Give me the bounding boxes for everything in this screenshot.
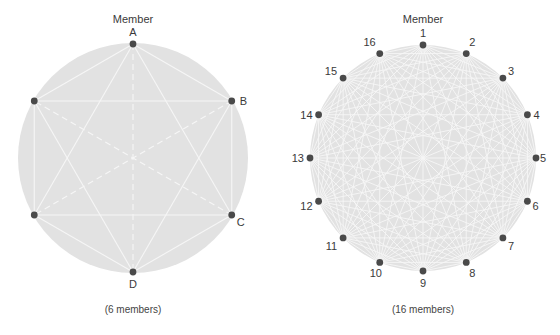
member-node	[315, 198, 322, 205]
member-node	[228, 98, 235, 105]
member-node	[420, 42, 427, 49]
member-label: 3	[508, 65, 514, 77]
member-node	[31, 212, 38, 219]
member-header: Member	[113, 13, 154, 25]
member-label: 16	[364, 36, 376, 48]
member-node	[31, 98, 38, 105]
member-label: 2	[469, 36, 475, 48]
sixteen-member-network: 12345678910111213141516 Member (16 membe…	[292, 13, 546, 315]
network-diagrams: ABCD Member (6 members) 1234567891011121…	[0, 0, 560, 335]
member-label: 5	[540, 152, 546, 164]
member-label: A	[129, 26, 137, 38]
member-label: 10	[370, 267, 382, 279]
member-node	[340, 235, 347, 242]
member-label: 15	[325, 65, 337, 77]
member-label: B	[240, 95, 247, 107]
member-node	[524, 111, 531, 118]
member-node	[315, 111, 322, 118]
member-label: 4	[533, 109, 539, 121]
member-node	[376, 259, 383, 266]
member-label: 13	[292, 152, 304, 164]
member-label: 8	[469, 267, 475, 279]
member-node	[533, 155, 540, 162]
member-node	[130, 41, 137, 48]
member-label: 11	[326, 240, 337, 252]
member-label: D	[129, 278, 137, 290]
member-node	[307, 155, 314, 162]
member-node	[130, 269, 137, 276]
diagram-caption: (6 members)	[105, 304, 162, 315]
six-member-network: ABCD Member (6 members)	[18, 13, 248, 315]
member-node	[463, 259, 470, 266]
member-header: Member	[403, 13, 444, 25]
member-node	[524, 198, 531, 205]
member-node	[500, 75, 507, 82]
member-node	[376, 50, 383, 57]
member-label: 6	[532, 200, 538, 212]
member-label: 12	[300, 200, 312, 212]
member-label: 14	[300, 109, 312, 121]
member-node	[228, 212, 235, 219]
diagram-caption: (16 members)	[392, 304, 454, 315]
member-node	[463, 50, 470, 57]
member-node	[420, 268, 427, 275]
member-label: C	[237, 216, 245, 228]
member-label: 1	[420, 27, 426, 39]
member-node	[340, 75, 347, 82]
member-label: 9	[420, 277, 426, 289]
member-node	[500, 235, 507, 242]
member-label: 7	[508, 240, 514, 252]
